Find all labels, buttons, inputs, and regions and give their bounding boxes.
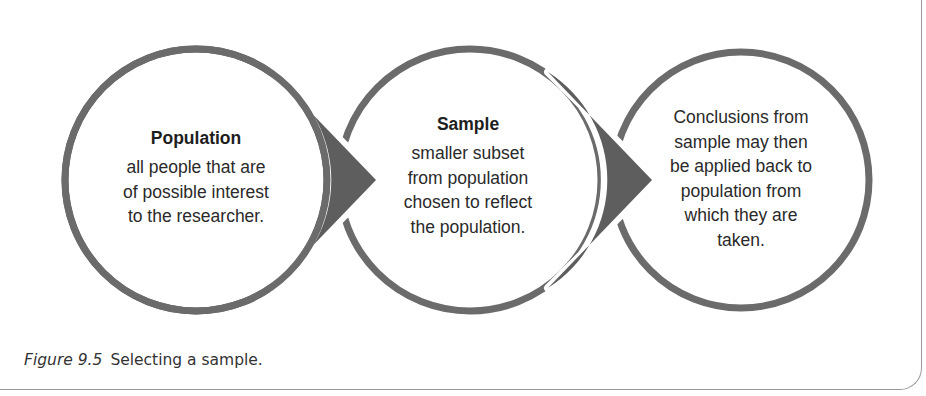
circle-conclusions-line: Conclusions from [641, 105, 841, 130]
circle-sample-title: Sample [368, 112, 568, 136]
figure-caption-label: Figure 9.5 [24, 351, 102, 369]
figure-caption: Figure 9.5Selecting a sample. [24, 351, 263, 369]
circle-conclusions-line: which they are [641, 203, 841, 228]
circle-conclusions-line: be applied back to [641, 154, 841, 179]
circle-population-line: of possible interest [96, 180, 296, 205]
circle-sample-line: chosen to reflect [368, 190, 568, 215]
circle-sample-line: from population [368, 166, 568, 191]
circle-conclusions: Conclusions from sample may then be appl… [641, 105, 841, 252]
circle-conclusions-line: taken. [641, 228, 841, 253]
circle-population-title: Population [96, 126, 296, 150]
circle-population: Population all people that are of possib… [96, 126, 296, 229]
circle-population-line: all people that are [96, 155, 296, 180]
circle-population-line: to the researcher. [96, 204, 296, 229]
circle-conclusions-line: population from [641, 179, 841, 204]
figure-caption-text: Selecting a sample. [110, 351, 262, 369]
circle-sample: Sample smaller subset from population ch… [368, 112, 568, 239]
circle-sample-line: smaller subset [368, 141, 568, 166]
circle-conclusions-line: sample may then [641, 130, 841, 155]
circle-sample-line: the population. [368, 215, 568, 240]
